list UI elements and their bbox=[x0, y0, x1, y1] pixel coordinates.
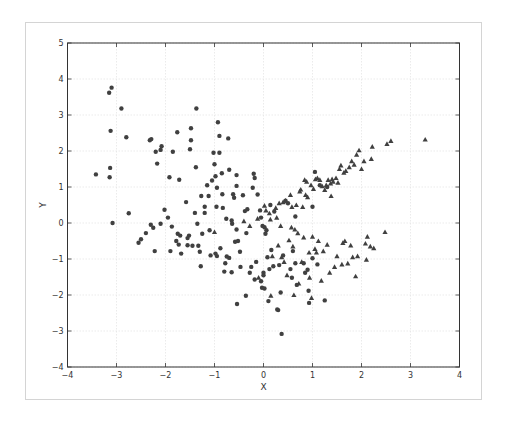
triangle-marker bbox=[382, 229, 387, 234]
circle-marker bbox=[264, 228, 268, 232]
triangle-marker bbox=[273, 205, 278, 210]
circle-marker bbox=[251, 186, 255, 190]
circle-marker bbox=[259, 215, 263, 219]
circle-marker bbox=[271, 264, 275, 268]
triangle-marker bbox=[270, 254, 275, 259]
circle-marker bbox=[215, 254, 219, 258]
circle-marker bbox=[166, 215, 170, 219]
circle-marker bbox=[155, 161, 159, 165]
circle-marker bbox=[254, 260, 258, 264]
triangle-marker bbox=[212, 229, 217, 234]
x-axis-label: X bbox=[260, 382, 266, 392]
circle-marker bbox=[310, 256, 314, 260]
triangle-marker bbox=[247, 223, 252, 228]
triangle-marker bbox=[301, 235, 306, 240]
circle-marker bbox=[168, 249, 172, 253]
y-tick-label: −1 bbox=[52, 255, 64, 264]
circle-marker bbox=[313, 170, 317, 174]
circle-marker bbox=[238, 265, 242, 269]
circle-marker bbox=[232, 196, 236, 200]
circle-marker bbox=[119, 106, 123, 110]
triangle-marker bbox=[361, 158, 366, 163]
triangle-marker bbox=[359, 166, 364, 171]
triangle-marker bbox=[363, 241, 368, 246]
circle-marker bbox=[177, 242, 181, 246]
circle-marker bbox=[178, 233, 182, 237]
circle-marker bbox=[208, 253, 212, 257]
circle-marker bbox=[226, 136, 230, 140]
circle-marker bbox=[188, 147, 192, 151]
y-tick-label: 0 bbox=[58, 219, 63, 228]
triangle-marker bbox=[423, 137, 428, 142]
triangle-marker bbox=[306, 250, 311, 255]
triangle-marker bbox=[319, 278, 324, 283]
triangle-marker bbox=[332, 264, 337, 269]
y-tick-label: −3 bbox=[52, 327, 64, 336]
triangle-marker bbox=[256, 275, 261, 280]
circle-marker bbox=[276, 308, 280, 312]
circle-marker bbox=[205, 183, 209, 187]
circle-marker bbox=[153, 249, 157, 253]
circle-marker bbox=[170, 224, 174, 228]
circle-marker bbox=[227, 256, 231, 260]
data-points bbox=[94, 85, 428, 336]
circle-marker bbox=[200, 232, 204, 236]
triangle-marker bbox=[339, 262, 344, 267]
circle-marker bbox=[220, 192, 224, 196]
circle-marker bbox=[222, 269, 226, 273]
y-tick-label: −4 bbox=[52, 363, 64, 372]
circle-marker bbox=[184, 200, 188, 204]
circle-marker bbox=[199, 264, 203, 268]
circle-marker bbox=[248, 270, 252, 274]
x-tick-label: −3 bbox=[111, 371, 123, 380]
triangle-marker bbox=[309, 295, 314, 300]
triangle-marker bbox=[289, 225, 294, 230]
triangle-marker bbox=[329, 193, 334, 198]
circle-marker bbox=[268, 203, 272, 207]
y-tick-label: 1 bbox=[58, 183, 63, 192]
axis-ticks: −4−3−2−101234−4−3−2−1012345 bbox=[52, 39, 462, 380]
circle-marker bbox=[107, 175, 111, 179]
circle-marker bbox=[215, 186, 219, 190]
triangle-marker bbox=[288, 192, 293, 197]
x-tick-label: 4 bbox=[457, 371, 462, 380]
circle-marker bbox=[211, 151, 215, 155]
triangle-marker bbox=[298, 187, 303, 192]
circle-marker bbox=[189, 138, 193, 142]
triangle-marker bbox=[268, 217, 273, 222]
circle-marker bbox=[252, 176, 256, 180]
y-tick-label: 2 bbox=[58, 147, 63, 156]
y-axis-label: Y bbox=[38, 202, 48, 209]
x-tick-label: 1 bbox=[310, 371, 315, 380]
circle-marker bbox=[218, 246, 222, 250]
circle-marker bbox=[108, 166, 112, 170]
circle-marker bbox=[307, 301, 311, 305]
y-tick-label: −2 bbox=[52, 291, 64, 300]
circle-marker bbox=[107, 90, 111, 94]
triangle-marker bbox=[348, 243, 353, 248]
triangle-marker bbox=[338, 163, 343, 168]
circle-marker bbox=[306, 288, 310, 292]
circle-marker bbox=[261, 273, 265, 277]
circle-marker bbox=[293, 214, 297, 218]
x-tick-label: 0 bbox=[261, 371, 266, 380]
triangle-marker bbox=[355, 254, 360, 259]
triangle-marker bbox=[276, 243, 281, 248]
circle-marker bbox=[258, 208, 262, 212]
circle-marker bbox=[210, 178, 214, 182]
triangle-marker bbox=[321, 248, 326, 253]
circle-marker bbox=[278, 290, 282, 294]
circle-marker bbox=[94, 172, 98, 176]
circle-marker bbox=[265, 255, 269, 259]
triangle-marker bbox=[278, 223, 283, 228]
circle-marker bbox=[193, 211, 197, 215]
circle-marker bbox=[245, 207, 249, 211]
triangle-marker bbox=[286, 238, 291, 243]
circle-marker bbox=[234, 173, 238, 177]
triangle-marker bbox=[368, 244, 373, 249]
circle-marker bbox=[199, 194, 203, 198]
circle-marker bbox=[238, 250, 242, 254]
triangle-marker bbox=[290, 244, 295, 249]
triangle-marker bbox=[353, 274, 358, 279]
circle-marker bbox=[196, 243, 200, 247]
